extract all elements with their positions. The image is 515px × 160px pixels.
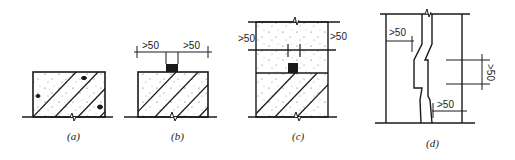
dim-d-bottom: >50 <box>437 99 454 110</box>
panel-a <box>22 68 147 121</box>
panel-a-label: (a) <box>67 130 80 143</box>
construction-joint-diagram: (a) >50 >50 (b) <box>0 0 515 160</box>
dim-d-top: >50 <box>389 27 406 38</box>
panel-d-label: (d) <box>426 137 439 150</box>
dim-c-left: >50 <box>238 33 255 44</box>
panel-c-label: (c) <box>292 130 305 143</box>
dim-c-right: >50 <box>330 31 347 42</box>
panel-b <box>124 46 246 121</box>
waterstop-block <box>166 64 178 72</box>
panel-b-label: (b) <box>171 130 184 143</box>
dim-b-right: >50 <box>183 40 200 51</box>
dim-d-right: >50 <box>485 64 496 81</box>
dim-b-left: >50 <box>142 40 159 51</box>
